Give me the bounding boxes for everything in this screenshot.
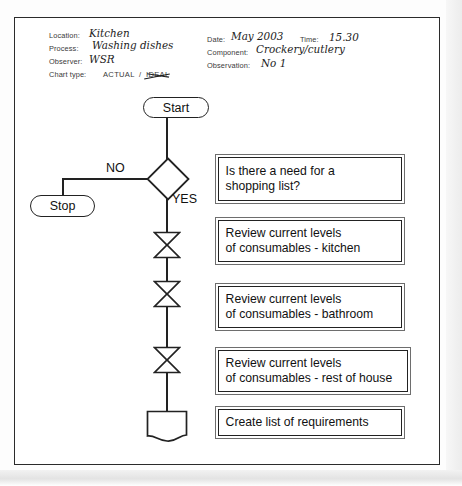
- observation-label: Observation:: [207, 61, 250, 70]
- step-box-4-line-2: of consumables - rest of house: [226, 371, 401, 387]
- chart-type-separator: /: [139, 70, 141, 79]
- operation-bowtie-shape: [153, 346, 181, 374]
- step-box-2-line-1: Review current levels: [226, 226, 395, 242]
- operation-bowtie-shape: [153, 231, 181, 259]
- step-box-3-inner: Review current levels of consumables - b…: [218, 286, 403, 329]
- component-value: Crockery/cutlery: [256, 43, 345, 55]
- scan-edge-shadow-bottom: [0, 470, 462, 486]
- branch-label-no: NO: [106, 161, 125, 175]
- location-label: Location:: [49, 31, 80, 40]
- step-box-1-inner: Is there a need for a shopping list?: [218, 157, 403, 202]
- step-box-1-line-2: shopping list?: [226, 179, 395, 195]
- stop-terminator[interactable]: Stop: [30, 195, 95, 217]
- connector-no-branch-horizontal: [62, 178, 148, 180]
- component-label: Component:: [207, 48, 248, 57]
- branch-label-yes: YES: [172, 192, 197, 206]
- start-terminator-label: Start: [163, 101, 189, 115]
- step-box-4[interactable]: Review current levels of consumables - r…: [215, 347, 411, 395]
- step-box-2-line-2: of consumables - kitchen: [226, 241, 395, 257]
- step-box-3-line-1: Review current levels: [226, 292, 395, 308]
- connector-operation-1-to-2: [166, 258, 168, 281]
- start-terminator[interactable]: Start: [143, 97, 209, 118]
- document-symbol-shape: [146, 410, 188, 444]
- time-value: 15.30: [329, 31, 359, 43]
- process-value: Washing dishes: [92, 39, 173, 51]
- step-box-4-line-1: Review current levels: [226, 356, 401, 372]
- step-box-4-inner: Review current levels of consumables - r…: [218, 350, 409, 393]
- observer-label: Observer:: [49, 57, 82, 66]
- operation-bowtie-3[interactable]: [153, 346, 181, 374]
- step-box-3-line-2: of consumables - bathroom: [226, 307, 395, 323]
- step-box-5[interactable]: Create list of requirements: [215, 406, 405, 439]
- connector-operation-3-to-document: [166, 373, 168, 411]
- connector-start-to-decision: [166, 117, 168, 159]
- step-box-5-line-1: Create list of requirements: [226, 415, 395, 431]
- step-box-2-inner: Review current levels of consumables - k…: [218, 220, 403, 263]
- operation-bowtie-1[interactable]: [153, 231, 181, 259]
- step-box-1-line-1: Is there a need for a: [226, 164, 395, 180]
- step-box-1[interactable]: Is there a need for a shopping list?: [215, 154, 405, 204]
- connector-operation-2-to-3: [166, 307, 168, 347]
- scanned-page-surface: Location: Kitchen Process: Washing dishe…: [0, 0, 462, 486]
- stop-terminator-label: Stop: [50, 199, 76, 213]
- scan-edge-shadow-right: [446, 0, 462, 486]
- date-value: May 2003: [231, 30, 283, 42]
- chart-type-option-actual[interactable]: ACTUAL: [103, 70, 135, 79]
- step-box-3[interactable]: Review current levels of consumables - b…: [215, 283, 405, 331]
- chart-type-label: Chart type:: [49, 70, 86, 79]
- observation-value: No 1: [261, 57, 286, 69]
- operation-bowtie-2[interactable]: [153, 280, 181, 308]
- connector-decision-to-operation-1: [166, 199, 168, 232]
- step-box-2[interactable]: Review current levels of consumables - k…: [215, 217, 405, 265]
- date-label: Date:: [207, 35, 225, 44]
- observer-value: WSR: [89, 53, 115, 65]
- operation-bowtie-shape: [153, 280, 181, 308]
- process-label: Process:: [49, 44, 79, 53]
- location-value: Kitchen: [89, 27, 130, 39]
- document-symbol[interactable]: [146, 410, 188, 444]
- step-box-5-inner: Create list of requirements: [218, 409, 403, 437]
